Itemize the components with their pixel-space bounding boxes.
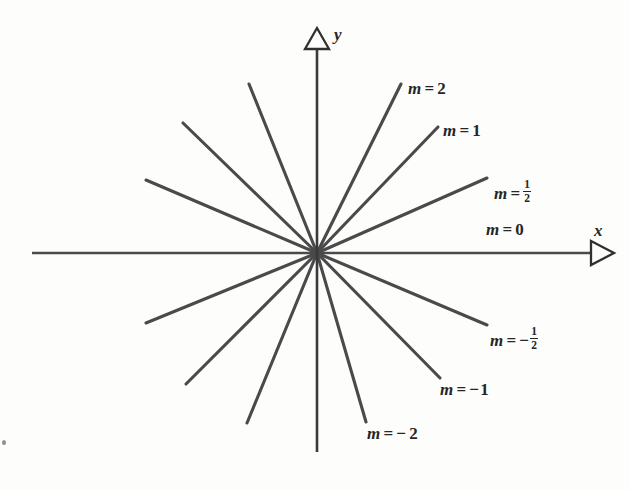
- slope-label-negative-1: m=−1: [440, 381, 489, 398]
- x-axis-arrowhead-icon: [591, 241, 614, 265]
- slope-family-figure: y x m=2 m=1 m=12 m=0 m=−12 m=−1 m=−2: [0, 0, 630, 490]
- slope-label-2: m=2: [408, 80, 446, 97]
- slope-label-equals: =: [381, 424, 396, 443]
- y-axis-label: y: [334, 26, 342, 43]
- figure-canvas: [0, 0, 630, 490]
- slope-label-one-half: m=12: [494, 180, 531, 205]
- slope-label-equals: =: [504, 331, 519, 350]
- x-axis-label: x: [594, 222, 603, 239]
- slope-label-variable: m: [440, 380, 454, 399]
- ray-upper-left-diag: [183, 123, 317, 253]
- fraction-numerator: 1: [523, 179, 531, 191]
- slope-label-negative-2: m=−2: [367, 425, 418, 442]
- scan-speck: [2, 440, 6, 445]
- fraction-denominator: 2: [523, 193, 531, 205]
- slope-label-variable: m: [443, 121, 457, 140]
- slope-label-equals: =: [422, 79, 437, 98]
- ray-slope-half: [317, 178, 487, 253]
- ray-lower-left-diag: [186, 253, 317, 384]
- slope-label-equals: =: [500, 220, 515, 239]
- y-axis-arrowhead-icon: [305, 28, 329, 49]
- slope-label-equals: =: [508, 184, 523, 203]
- minus-sign: −: [396, 424, 409, 443]
- slope-label-equals: =: [454, 380, 469, 399]
- minus-sign: −: [519, 331, 530, 350]
- slope-label-variable: m: [408, 79, 422, 98]
- slope-label-equals: =: [457, 121, 472, 140]
- slope-label-0: m=0: [486, 221, 524, 238]
- fraction-numerator: 1: [530, 326, 538, 338]
- slope-label-1: m=1: [443, 122, 481, 139]
- slope-label-variable: m: [367, 424, 381, 443]
- slope-label-variable: m: [486, 220, 500, 239]
- slope-label-value: 2: [437, 79, 446, 98]
- slope-label-value: 1: [480, 380, 489, 399]
- slope-label-value: 0: [515, 220, 524, 239]
- ray-slope-negative-half: [317, 253, 487, 325]
- slope-label-negative-one-half: m=−12: [490, 327, 538, 352]
- fraction-denominator: 2: [530, 340, 538, 352]
- slope-label-value: 1: [472, 121, 481, 140]
- minus-sign: −: [469, 380, 480, 399]
- slope-label-value: 2: [409, 424, 418, 443]
- ray-slope-2: [317, 84, 401, 253]
- slope-label-variable: m: [494, 184, 508, 203]
- fraction-one-half: 12: [523, 179, 531, 204]
- slope-label-variable: m: [490, 331, 504, 350]
- fraction-one-half: 12: [530, 326, 538, 351]
- ray-slope-1: [317, 127, 438, 253]
